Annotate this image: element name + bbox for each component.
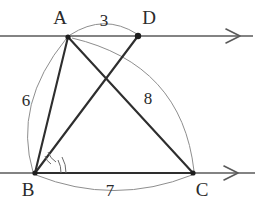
length-label-bc: 7 — [106, 181, 115, 200]
vertex-dot-d — [135, 33, 141, 39]
length-label-ad: 3 — [100, 11, 109, 30]
geometry-figure: A D B C 3 6 8 7 — [0, 0, 262, 211]
segment-group — [35, 36, 193, 173]
vertex-dot-b — [32, 170, 37, 175]
vertex-dot-a — [65, 34, 70, 39]
vertex-label-a: A — [53, 7, 67, 28]
vertex-dot-group — [32, 33, 195, 176]
arc-ac — [72, 38, 194, 171]
vertex-label-d: D — [142, 7, 156, 28]
figure-canvas: A D B C 3 6 8 7 — [0, 0, 262, 211]
angle-arc-dbc-inner — [58, 160, 61, 173]
vertex-dot-c — [190, 170, 195, 175]
angle-arc-dbc-outer — [62, 157, 66, 173]
length-label-ac: 8 — [144, 89, 153, 108]
vertex-label-b: B — [22, 179, 35, 200]
arc-ab — [28, 39, 66, 172]
length-label-ab: 6 — [22, 91, 31, 110]
measure-arc-group — [28, 24, 194, 191]
vertex-label-c: C — [196, 179, 209, 200]
